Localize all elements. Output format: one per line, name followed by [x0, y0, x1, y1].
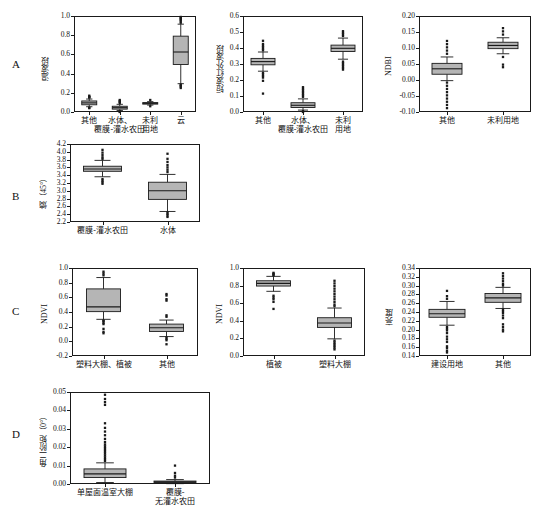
x-tick: [503, 356, 504, 359]
axes-frame: [243, 268, 365, 356]
plot-a1: 温波段 0.00.20.40.60.81.0其他水体、覆膜-灌水农田未利用地云: [38, 8, 203, 148]
figure-root: A 温波段 0.00.20.40.60.81.0其他水体、覆膜-灌水农田未利用地…: [0, 0, 551, 513]
y-tick-label: 0.24: [394, 307, 415, 316]
y-tick: [416, 338, 419, 339]
y-tick: [69, 312, 72, 313]
y-tick-label: 0.3: [222, 59, 239, 68]
plot-a2: 短波红外波段 0.00.10.20.30.40.50.6其他水体、覆膜-灌水农田…: [213, 8, 373, 148]
axes-frame: [419, 268, 531, 356]
y-tick: [240, 64, 243, 65]
y-tick-label: 0.18: [394, 333, 415, 342]
y-tick-label: 0.5: [222, 27, 239, 36]
y-tick-label: 0.8: [49, 278, 68, 287]
y-tick: [416, 277, 419, 278]
y-tick: [71, 16, 74, 17]
y-tick: [67, 183, 70, 184]
y-tick-label: 0.05: [393, 59, 415, 68]
y-tick-label: 0.4: [49, 307, 68, 316]
x-tick: [503, 112, 504, 115]
y-tick: [67, 199, 70, 200]
x-tick: [103, 222, 104, 225]
x-tick: [105, 484, 106, 487]
x-tick: [274, 356, 275, 359]
y-tick-label: 0.0: [222, 107, 239, 116]
y-tick-label: 0.30: [394, 281, 415, 290]
panel-letter-b: B: [12, 190, 19, 202]
y-tick-label: 0.04: [47, 405, 66, 414]
y-tick-label: 0.6: [222, 298, 239, 307]
x-tick-label: 覆膜-无灌水农田: [115, 488, 235, 506]
y-tick: [67, 175, 70, 176]
y-tick-label: 4.0: [49, 147, 66, 156]
y-tick: [67, 429, 70, 430]
y-tick-label: 0.26: [394, 298, 415, 307]
y-tick-label: 0.03: [47, 424, 66, 433]
y-tick: [416, 286, 419, 287]
x-tick: [120, 112, 121, 115]
y-tick-label: 0.2: [222, 75, 239, 84]
y-tick-label: 0.0: [222, 351, 239, 360]
y-tick-label: 0.4: [53, 69, 70, 78]
y-tick: [416, 32, 419, 33]
x-tick-label: 未利用地: [443, 116, 551, 125]
y-tick: [416, 64, 419, 65]
y-tick: [240, 338, 243, 339]
y-tick-label: 4.2: [49, 139, 66, 148]
y-tick-label: 3.8: [49, 155, 66, 164]
y-tick: [71, 54, 74, 55]
y-tick-label: 3.4: [49, 170, 66, 179]
y-tick-label: 0.2: [49, 322, 68, 331]
y-tick: [416, 96, 419, 97]
y-tick: [71, 112, 74, 113]
y-tick: [67, 484, 70, 485]
y-tick: [67, 191, 70, 192]
y-tick-label: 2.2: [49, 217, 66, 226]
y-tick-label: 0.20: [394, 325, 415, 334]
y-tick: [67, 392, 70, 393]
y-tick: [416, 48, 419, 49]
y-tick-label: 0.15: [393, 27, 415, 36]
y-tick-label: 1.0: [53, 11, 70, 20]
axes-frame: [70, 144, 200, 222]
plot-c2: NDVI 0.00.20.40.60.81.0植被塑料大棚: [213, 262, 373, 382]
plot-d1: 角二阶矩（0°） 0.000.010.020.030.040.05单屋面温室大棚…: [38, 386, 213, 513]
y-tick: [69, 356, 72, 357]
y-tick: [67, 167, 70, 168]
y-tick: [416, 112, 419, 113]
x-tick: [181, 112, 182, 115]
y-tick-label: 0.16: [394, 342, 415, 351]
y-tick-label: 3.0: [49, 186, 66, 195]
y-tick: [69, 341, 72, 342]
panel-letter-c: C: [12, 305, 19, 317]
y-tick-label: 0.05: [47, 387, 66, 396]
axes-frame: [70, 392, 210, 484]
y-tick-label: 0.2: [53, 88, 70, 97]
y-tick: [67, 144, 70, 145]
axes-frame: [243, 16, 363, 112]
y-tick-label: 0.0: [53, 107, 70, 116]
y-tick: [240, 48, 243, 49]
y-tick-label: 2.6: [49, 201, 66, 210]
y-tick-label: 0.22: [394, 316, 415, 325]
y-tick-label: -0.10: [393, 107, 415, 116]
y-tick: [416, 294, 419, 295]
y-tick-label: 0.01: [47, 461, 66, 470]
y-axis-label-a1: 温波段: [40, 38, 50, 100]
x-tick: [89, 112, 90, 115]
y-axis-label-c3: 亮度: [384, 302, 394, 332]
x-tick: [343, 112, 344, 115]
y-tick-label: 1.0: [222, 263, 239, 272]
plot-c3: 亮度 0.140.160.180.200.220.240.260.280.300…: [383, 262, 543, 382]
y-tick-label: 2.8: [49, 194, 66, 203]
y-tick: [67, 152, 70, 153]
x-tick-label: 塑料大棚: [275, 360, 395, 369]
y-tick-label: 0.28: [394, 289, 415, 298]
y-tick: [71, 35, 74, 36]
y-tick-label: 0.14: [394, 351, 415, 360]
y-tick-label: 2.4: [49, 209, 66, 218]
axes-frame: [419, 16, 531, 112]
y-tick-label: 0.6: [222, 11, 239, 20]
x-tick: [150, 112, 151, 115]
y-tick: [69, 327, 72, 328]
y-tick: [71, 74, 74, 75]
